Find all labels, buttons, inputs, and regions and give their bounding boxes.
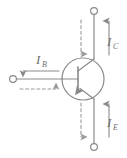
emitter-current-label: I — [106, 115, 112, 130]
collector-lead-angled — [78, 59, 94, 71]
collector-terminal-circle — [91, 8, 98, 15]
base-terminal-circle — [10, 76, 17, 83]
collector-current-label: I — [106, 34, 112, 49]
schematic-canvas: I C I B I E — [0, 0, 127, 158]
label-group: I C I B I E — [35, 34, 119, 132]
collector-current-subscript: C — [113, 42, 119, 51]
emitter-current-subscript: E — [112, 123, 118, 132]
base-current-label: I — [35, 52, 41, 67]
transistor-diagram: I C I B I E — [0, 0, 127, 158]
emitter-lead-angled-arrow — [80, 89, 94, 100]
base-current-subscript: B — [42, 60, 47, 69]
emitter-terminal-circle — [91, 144, 98, 151]
